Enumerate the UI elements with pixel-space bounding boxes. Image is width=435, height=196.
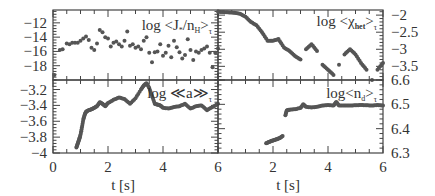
data-point <box>178 50 182 54</box>
data-point <box>205 44 209 48</box>
data-point <box>120 44 124 48</box>
xlabel-right: t [s] <box>276 177 300 193</box>
xtick-label: 2 <box>104 159 112 175</box>
panel-bottom-right: 6.66.56.46.3246log<nd>τ <box>218 72 410 175</box>
panel-label: log<nd>τ <box>326 85 378 104</box>
xtick-label: 4 <box>324 159 332 175</box>
panel-top-right: −2−2.5−3−3.5log <χhet>τ <box>216 7 418 82</box>
ytick-label: 6.4 <box>391 121 410 137</box>
data-point <box>101 30 105 34</box>
ytick-label: −2.5 <box>391 24 418 40</box>
ytick-label: −18 <box>24 58 47 74</box>
xtick-label: 6 <box>379 159 387 175</box>
data-point <box>208 51 212 55</box>
xtick-label: 6 <box>214 159 222 175</box>
xtick-label: 4 <box>159 159 167 175</box>
data-point <box>183 53 187 57</box>
data-point <box>191 58 195 62</box>
ytick-label: 6.3 <box>391 145 410 161</box>
data-point <box>156 49 160 53</box>
panel-label: log <J*/nH>τ <box>142 17 213 36</box>
data-point <box>213 51 217 55</box>
ytick-label: −3.6 <box>20 113 48 129</box>
ytick-label: −4 <box>31 145 47 161</box>
panel-bottom-left: −3.2−3.4−3.6−3.8−40246log ≪a≫τ <box>20 80 222 175</box>
ytick-label: −3.4 <box>20 97 48 113</box>
data-point <box>189 48 193 52</box>
data-point <box>180 57 184 61</box>
data-point <box>92 48 96 52</box>
data-point <box>169 55 173 59</box>
data-point <box>172 39 176 43</box>
data-point <box>95 42 99 46</box>
data-point <box>87 38 91 42</box>
panel-top-left: −12−14−16−18log <J*/nH>τ <box>24 10 220 80</box>
data-point <box>337 63 341 67</box>
panel-label: log <χhet>τ <box>317 13 378 32</box>
ytick-label: −3.8 <box>20 129 47 145</box>
data-point <box>131 42 135 46</box>
data-point <box>123 39 127 43</box>
ytick-label: 6.6 <box>391 72 410 88</box>
xtick-label: 2 <box>269 159 277 175</box>
data-point <box>109 44 113 48</box>
data-point <box>142 39 146 43</box>
ytick-label: −2 <box>391 7 407 23</box>
data-point <box>125 29 129 33</box>
figure: −12−14−16−18log <J*/nH>τ−2−2.5−3−3.5log … <box>0 0 435 196</box>
data-point <box>167 44 171 48</box>
data-point <box>211 65 215 69</box>
xtick-label: 0 <box>49 159 57 175</box>
data-point <box>150 60 154 64</box>
data-point <box>139 47 143 51</box>
data-point <box>52 73 56 77</box>
data-point <box>186 37 190 41</box>
ytick-label: −3 <box>391 41 407 57</box>
ytick-label: 6.5 <box>391 96 410 112</box>
data-point <box>164 51 168 55</box>
data-point <box>145 35 149 39</box>
ytick-label: −3.2 <box>20 82 47 98</box>
data-point <box>158 42 162 46</box>
data-point <box>147 51 151 55</box>
panel-label: log ≪a≫τ <box>147 85 213 104</box>
axes-frame <box>218 10 383 80</box>
data-point <box>84 34 88 38</box>
data-point <box>61 47 65 51</box>
data-point <box>106 37 110 41</box>
data-point <box>175 45 179 49</box>
xlabel-left: t [s] <box>111 177 135 193</box>
